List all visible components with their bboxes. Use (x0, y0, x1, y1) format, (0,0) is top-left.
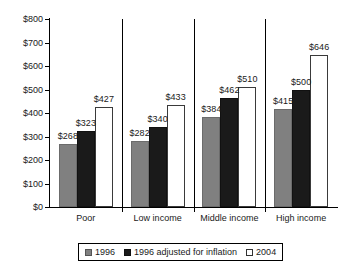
x-tick (265, 207, 266, 212)
legend-label-1996-adjusted: 1996 adjusted for inflation (134, 248, 237, 257)
legend-label-1996: 1996 (95, 248, 115, 257)
bar-value-label: $323 (71, 119, 101, 128)
bar (59, 144, 77, 207)
y-tick (45, 184, 50, 185)
y-tick-label: $400 (0, 109, 43, 118)
category-label: High income (265, 213, 337, 223)
y-tick (45, 90, 50, 91)
legend-label-2004: 2004 (256, 248, 276, 257)
y-tick-label: $600 (0, 62, 43, 71)
bar-value-label: $415 (268, 97, 298, 106)
bar (220, 98, 238, 207)
bar-value-label: $384 (196, 105, 226, 114)
bar (77, 131, 95, 207)
bar-value-label: $282 (125, 129, 155, 138)
bar-value-label: $433 (161, 93, 191, 102)
chart-legend: 1996 1996 adjusted for inflation 2004 (78, 243, 283, 261)
y-tick-label: $300 (0, 133, 43, 142)
y-tick (45, 19, 50, 20)
y-tick-label: $800 (0, 15, 43, 24)
y-tick (45, 207, 50, 208)
group-divider (194, 19, 195, 207)
y-tick (45, 43, 50, 44)
bar (149, 127, 167, 207)
category-label: Middle income (194, 213, 266, 223)
legend-swatch-1996-adjusted-icon (124, 249, 131, 256)
bar (131, 141, 149, 207)
category-label: Poor (50, 213, 122, 223)
bar-chart: $0$100$200$300$400$500$600$700$800 $268$… (0, 0, 343, 268)
y-tick (45, 66, 50, 67)
bar-value-label: $462 (214, 86, 244, 95)
bar (292, 90, 310, 208)
bar-value-label: $268 (53, 132, 83, 141)
group-divider (122, 19, 123, 207)
y-tick-label: $0 (0, 203, 43, 212)
y-tick (45, 137, 50, 138)
bar-value-label: $510 (232, 75, 262, 84)
y-tick-label: $500 (0, 86, 43, 95)
y-tick-label: $700 (0, 39, 43, 48)
bar (238, 87, 256, 207)
y-tick (45, 113, 50, 114)
bar-value-label: $500 (286, 78, 316, 87)
group-divider (265, 19, 266, 207)
bar (202, 117, 220, 207)
y-tick-label: $100 (0, 180, 43, 189)
legend-item-1996: 1996 (85, 248, 115, 257)
bar (274, 109, 292, 207)
legend-swatch-2004-icon (246, 249, 253, 256)
x-tick (122, 207, 123, 212)
category-label: Low income (122, 213, 194, 223)
legend-item-2004: 2004 (246, 248, 276, 257)
x-tick (194, 207, 195, 212)
y-tick-label: $200 (0, 156, 43, 165)
bar-value-label: $340 (143, 115, 173, 124)
legend-swatch-1996-icon (85, 249, 92, 256)
bar-value-label: $646 (304, 43, 334, 52)
y-tick (45, 160, 50, 161)
legend-item-1996-adjusted: 1996 adjusted for inflation (124, 248, 237, 257)
bar-value-label: $427 (89, 95, 119, 104)
